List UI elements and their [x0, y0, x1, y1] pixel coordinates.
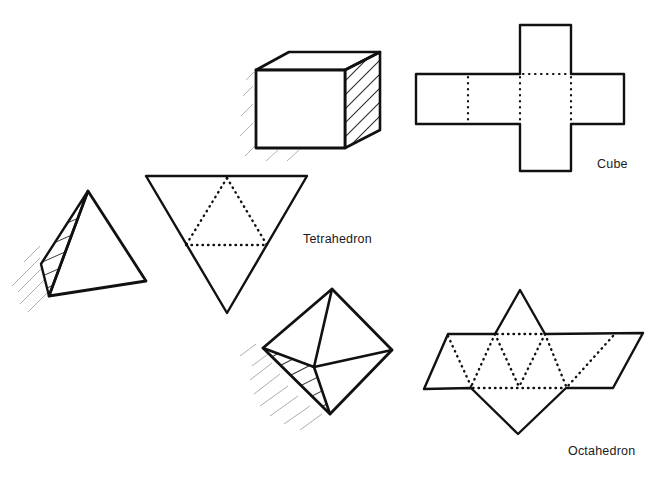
cube-front-face: [256, 70, 345, 148]
label-tetrahedron: Tetrahedron: [303, 232, 372, 246]
label-cube: Cube: [597, 157, 628, 171]
octahedron-net-outline: [424, 290, 643, 434]
octahedron-solid: [240, 289, 392, 430]
cube-net-outline: [416, 25, 624, 171]
tetrahedron-net: [146, 176, 307, 313]
cube-solid: [240, 34, 396, 164]
octahedron-net: [424, 290, 643, 434]
tetrahedron-net-outline: [146, 176, 307, 313]
cube-net: [416, 25, 624, 171]
tetrahedron-solid: [12, 190, 146, 312]
tetrahedron-front-face: [49, 191, 146, 296]
octahedron-shadow-hatching: [240, 344, 322, 430]
tetrahedron-shadow-hatching: [12, 246, 48, 312]
octahedron-internal-edges: [263, 289, 392, 414]
label-octahedron: Octahedron: [568, 444, 635, 458]
